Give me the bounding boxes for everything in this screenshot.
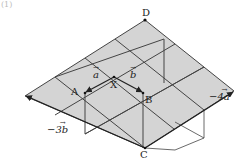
vector-arrow-glyph: → <box>93 65 99 72</box>
label-x: X <box>110 80 117 90</box>
point-b <box>142 92 145 95</box>
vector-neg4a-label: → −4a <box>209 92 230 102</box>
point-a <box>84 92 87 95</box>
vector-arrow-glyph: → <box>130 65 136 72</box>
point-d <box>143 18 146 21</box>
vector-arrow-glyph: → <box>57 120 68 127</box>
vector-arrow-glyph: → <box>219 87 230 94</box>
label-b: B <box>145 95 152 105</box>
label-c: C <box>140 150 148 159</box>
label-a: A <box>71 87 78 97</box>
vector-neg3b-label: → −3b <box>47 125 68 135</box>
label-d: D <box>142 8 150 18</box>
vector-grid-diagram <box>0 0 239 159</box>
vector-a-label: → a <box>93 70 99 80</box>
point-x <box>113 76 116 79</box>
vector-b-label: → b <box>130 70 136 80</box>
